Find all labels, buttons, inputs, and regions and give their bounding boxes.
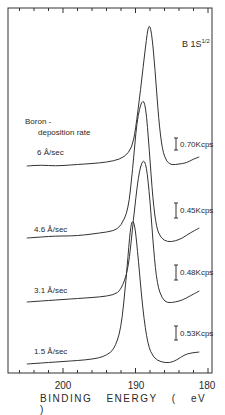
x-tick-200: 200 bbox=[55, 380, 72, 391]
legend-title-line1: Boron - bbox=[25, 117, 51, 126]
scale-bar-4 bbox=[174, 326, 178, 340]
plot-frame bbox=[8, 8, 212, 373]
scale-label-1: 0.70Kcps bbox=[180, 140, 213, 149]
rate-label-6: 6 Å/sec bbox=[37, 148, 64, 157]
scale-bar-1 bbox=[174, 138, 178, 150]
rate-label-3-1: 3.1 Å/sec bbox=[34, 286, 67, 295]
scale-bar-3 bbox=[174, 265, 178, 280]
title-main: B 1S bbox=[182, 39, 202, 49]
x-axis-ticks bbox=[20, 8, 209, 373]
scale-label-4: 0.53Kcps bbox=[180, 329, 213, 338]
scale-bar-2 bbox=[174, 203, 178, 218]
spectrum-curve-1 bbox=[27, 26, 200, 166]
x-axis-label: BINDING ENERGY ( eV ) bbox=[40, 393, 225, 415]
chart-title: B 1S1/2 bbox=[182, 38, 210, 49]
spectrum-curve-2 bbox=[27, 101, 200, 241]
title-sup: 1/2 bbox=[202, 38, 210, 44]
scale-label-2: 0.45Kcps bbox=[180, 206, 213, 215]
legend-title-line2: deposition rate bbox=[38, 128, 90, 137]
scale-label-3: 0.48Kcps bbox=[180, 268, 213, 277]
spectra-curves bbox=[27, 26, 200, 364]
rate-label-1-5: 1.5 Å/sec bbox=[34, 347, 67, 356]
x-tick-180: 180 bbox=[199, 380, 216, 391]
scale-bars bbox=[174, 138, 178, 340]
x-tick-190: 190 bbox=[128, 380, 145, 391]
rate-label-4-6: 4.6 Å/sec bbox=[34, 225, 67, 234]
